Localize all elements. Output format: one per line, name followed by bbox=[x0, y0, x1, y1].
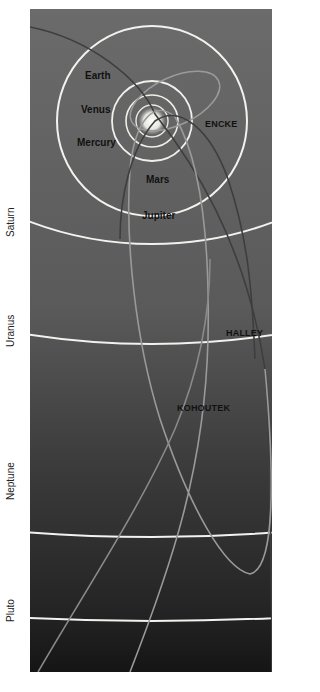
label-venus: Venus bbox=[81, 104, 111, 115]
label-mars: Mars bbox=[146, 174, 170, 185]
label-earth: Earth bbox=[85, 70, 111, 81]
label-halley: HALLEY bbox=[226, 328, 263, 338]
label-jupiter: Jupiter bbox=[142, 210, 175, 221]
orbit-canvas: Earth Venus Mercury Mars Jupiter ENCKE H… bbox=[30, 9, 272, 672]
label-mercury: Mercury bbox=[77, 137, 116, 148]
orbit-diagram: Earth Venus Mercury Mars Jupiter ENCKE H… bbox=[30, 9, 272, 672]
label-encke: ENCKE bbox=[205, 119, 238, 129]
label-kohoutek: KOHOUTEK bbox=[177, 403, 230, 413]
